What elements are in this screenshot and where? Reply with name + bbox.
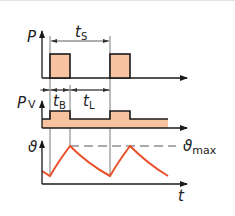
temperature-axis-label: ϑ [28,138,37,156]
temperature-curve [42,146,168,176]
temperature-panel: ϑ ϑmax t [28,137,217,205]
time-axis-label: t [178,187,185,205]
power-axis-label: P [27,28,37,46]
tl-label: tL [83,92,95,111]
power-pulse-1 [50,54,70,78]
theta-max-label: ϑmax [183,137,217,157]
duty-cycle-diagram: P tS PV tB tL ϑ ϑmax t [0,0,235,216]
losses-panel: PV tB tL [17,90,187,128]
power-pulse-2 [110,54,130,78]
power-panel: P tS [27,23,187,78]
tb-label: tB [53,92,66,111]
losses-axis-label: PV [17,94,36,112]
ts-label: tS [75,23,87,42]
